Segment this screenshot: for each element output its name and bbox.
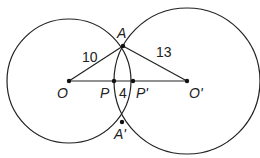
label-p: P bbox=[100, 86, 109, 100]
diagram-canvas bbox=[0, 0, 260, 158]
segment-o-prime-a bbox=[123, 46, 187, 81]
label-p-prime: P' bbox=[136, 86, 148, 100]
label-distance-4: 4 bbox=[119, 86, 127, 100]
label-o: O bbox=[57, 86, 68, 100]
point-p bbox=[112, 79, 116, 83]
point-o bbox=[67, 79, 71, 83]
label-a-prime: A' bbox=[114, 127, 126, 141]
intersecting-circles-diagram: A A' O O' P P' 10 13 4 bbox=[0, 0, 260, 158]
point-o-prime bbox=[185, 79, 189, 83]
point-a-prime bbox=[120, 120, 124, 124]
label-radius-10: 10 bbox=[82, 50, 98, 64]
point-p-prime bbox=[131, 79, 135, 83]
label-o-prime: O' bbox=[189, 86, 203, 100]
label-a: A bbox=[117, 26, 126, 40]
label-radius-13: 13 bbox=[156, 45, 172, 59]
point-a bbox=[121, 44, 125, 48]
